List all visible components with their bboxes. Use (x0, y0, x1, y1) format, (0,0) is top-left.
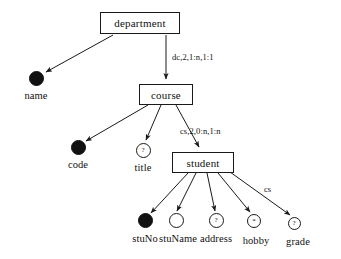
attribute-label-code: code (68, 159, 88, 170)
edge-student-stuno (151, 173, 188, 213)
attribute-node-address[interactable] (209, 213, 224, 228)
entity-label-student: student (186, 157, 219, 169)
entity-label-department: department (114, 17, 165, 29)
edge-label-cs-short: cs (264, 184, 271, 194)
attribute-label-address: address (200, 233, 232, 244)
attribute-label-hobby: hobby (243, 235, 270, 246)
edge-student-grade (230, 172, 290, 215)
attribute-node-stuname[interactable] (169, 213, 184, 228)
attribute-node-grade[interactable] (288, 217, 301, 230)
entity-node-department[interactable]: department (100, 12, 180, 34)
edge-label-dc: dc,2,1:n,1:1 (172, 52, 214, 62)
edge-student-address (207, 173, 215, 211)
attribute-label-name: name (24, 90, 47, 101)
attribute-node-stuno[interactable] (138, 213, 153, 228)
edge-label-cs: cs,2,0:n,1:n (180, 126, 221, 136)
attribute-node-code[interactable] (71, 140, 86, 155)
attribute-label-grade: grade (286, 236, 310, 247)
attribute-node-hobby[interactable] (247, 214, 261, 228)
edge-course-title (146, 105, 161, 140)
entity-node-course[interactable]: course (139, 84, 193, 105)
attribute-node-title[interactable] (136, 143, 151, 158)
schema-tree-diagram: department course student ? ? * ? name c… (0, 0, 341, 259)
edge-student-stuname (177, 173, 196, 211)
attribute-label-stuno: stuNo (132, 233, 158, 244)
attribute-node-name[interactable] (29, 71, 44, 86)
edge-student-hobby (218, 173, 250, 212)
entity-node-student[interactable]: student (172, 152, 234, 173)
attribute-label-title: title (135, 162, 152, 173)
attribute-label-stuname: stuName (159, 233, 197, 244)
entity-label-course: course (151, 89, 181, 101)
edge-department-name (46, 35, 113, 72)
edge-course-code (86, 105, 148, 141)
